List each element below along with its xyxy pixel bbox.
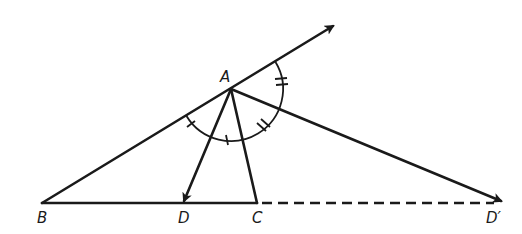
- tick-angle-dac: [226, 135, 228, 145]
- angle-bisector-diagram: A B D C D′: [0, 0, 522, 234]
- label-d: D: [178, 209, 190, 227]
- segment-ac: [231, 89, 257, 203]
- tick-exterior-angle-1: [275, 78, 287, 79]
- label-c: C: [252, 209, 263, 227]
- label-b: B: [37, 209, 47, 227]
- tick-exterior-angle-2: [276, 84, 288, 85]
- tick-angle-cad-prime-2: [261, 119, 270, 127]
- label-a: A: [219, 68, 230, 86]
- ray-ad-bisector: [184, 89, 231, 201]
- tick-angle-cad-prime-1: [257, 123, 266, 131]
- label-d-prime: D′: [486, 209, 502, 227]
- ray-ad-prime-exterior-bisector: [231, 89, 501, 201]
